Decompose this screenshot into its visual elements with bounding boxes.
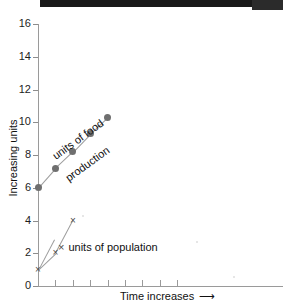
- data-point-food: [35, 184, 42, 191]
- page-watermark: [62, 9, 242, 41]
- y-tick-label: 0: [0, 279, 31, 291]
- x-axis-line: [38, 286, 283, 287]
- y-tick: [33, 24, 38, 25]
- x-tick: [73, 280, 74, 286]
- y-axis-line: [38, 24, 39, 286]
- speck: [82, 215, 84, 217]
- x-tick: [177, 280, 178, 286]
- scan-artifact-bar: [40, 0, 283, 7]
- x-axis-title: Time increases⟶: [120, 290, 215, 303]
- annotation-population: ×units of population: [58, 241, 158, 253]
- speck: [233, 276, 235, 278]
- y-tick-label: 2: [0, 246, 31, 258]
- y-tick-label: 14: [0, 50, 31, 62]
- x-marker-icon: ×: [58, 241, 64, 253]
- y-tick: [33, 57, 38, 58]
- x-tick: [125, 280, 126, 286]
- chart-figure: 0246810121416 Increasing units Time incr…: [0, 0, 283, 306]
- x-tick: [55, 280, 56, 286]
- y-tick: [33, 90, 38, 91]
- annotation-population-label: units of population: [68, 241, 157, 253]
- y-axis-title: Increasing units: [7, 98, 19, 218]
- x-tick: [108, 280, 109, 286]
- data-point-food: [52, 165, 59, 172]
- data-point-food: [104, 114, 111, 121]
- y-tick: [33, 155, 38, 156]
- data-point-population: ×: [70, 216, 76, 226]
- x-tick: [142, 280, 143, 286]
- y-tick: [33, 122, 38, 123]
- y-tick-label: 16: [0, 17, 31, 29]
- right-arrow-icon: ⟶: [199, 290, 215, 303]
- x-tick: [160, 280, 161, 286]
- y-tick: [33, 221, 38, 222]
- speck: [196, 241, 198, 243]
- x-tick: [90, 280, 91, 286]
- y-tick-label: 12: [0, 83, 31, 95]
- y-tick: [33, 253, 38, 254]
- scan-artifact-bar-tail: [252, 0, 283, 10]
- y-tick: [33, 286, 38, 287]
- x-axis-title-text: Time increases: [120, 290, 194, 302]
